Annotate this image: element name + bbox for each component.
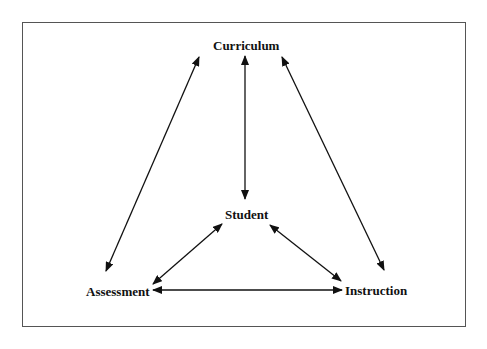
edge-student-assessment-arrow [153, 224, 222, 284]
edge-curriculum-instruction-arrow [282, 57, 384, 270]
node-instruction: Instruction [345, 284, 407, 297]
edge-curriculum-assessment-arrow [106, 57, 199, 271]
node-student: Student [225, 208, 268, 221]
edge-student-instruction-arrow [270, 225, 341, 281]
node-curriculum: Curriculum [213, 39, 279, 52]
node-assessment: Assessment [86, 285, 150, 298]
